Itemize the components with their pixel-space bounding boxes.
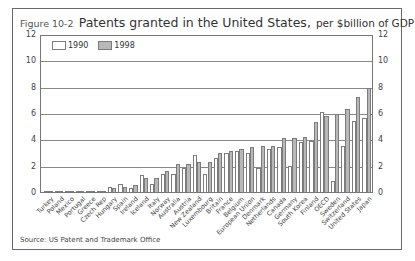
y-tick-label: 12 bbox=[22, 30, 36, 39]
y-tick-label: 0 bbox=[378, 188, 392, 197]
bar-1998 bbox=[165, 171, 169, 192]
source-note: Source: US Patent and Trademark Office bbox=[20, 236, 160, 244]
y-tick-label: 4 bbox=[22, 135, 36, 144]
legend-swatch-1990 bbox=[52, 41, 66, 50]
bar-1998 bbox=[154, 178, 158, 192]
legend-label-1998: 1998 bbox=[114, 41, 134, 50]
legend-item-1990: 1990 bbox=[52, 41, 88, 50]
y-tick-label: 0 bbox=[22, 188, 36, 197]
bar-1998 bbox=[239, 149, 243, 192]
plot-area bbox=[40, 35, 373, 193]
bar-1998 bbox=[292, 138, 296, 192]
legend-item-1998: 1998 bbox=[98, 41, 134, 50]
bar-1998 bbox=[335, 114, 339, 192]
bar-1998 bbox=[282, 138, 286, 192]
y-tick-label: 10 bbox=[22, 56, 36, 65]
figure-title: Figure 10-2 Patents granted in the Unite… bbox=[20, 12, 414, 31]
y-tick-label: 2 bbox=[378, 162, 392, 171]
y-tick-label: 2 bbox=[22, 162, 36, 171]
bar-1998 bbox=[59, 191, 63, 192]
bar-1998 bbox=[218, 153, 222, 193]
bar-1998 bbox=[229, 151, 233, 192]
bar-1998 bbox=[314, 122, 318, 192]
bar-1998 bbox=[48, 191, 52, 192]
y-tick-label: 12 bbox=[378, 30, 392, 39]
bar-1998 bbox=[144, 178, 148, 192]
bar-1998 bbox=[70, 191, 74, 192]
bar-1998 bbox=[80, 191, 84, 192]
bar-1998 bbox=[303, 137, 307, 192]
legend-label-1990: 1990 bbox=[68, 41, 88, 50]
y-tick-label: 4 bbox=[378, 135, 392, 144]
gridline bbox=[41, 61, 372, 62]
bar-1998 bbox=[208, 162, 212, 192]
bar-1998 bbox=[345, 109, 349, 192]
y-tick-label: 8 bbox=[22, 83, 36, 92]
bar-1998 bbox=[176, 164, 180, 192]
bar-1998 bbox=[261, 146, 265, 192]
y-tick-label: 8 bbox=[378, 83, 392, 92]
legend-swatch-1998 bbox=[98, 41, 112, 50]
bar-1998 bbox=[91, 191, 95, 192]
chart-title: Patents granted in the United States, bbox=[79, 15, 311, 30]
chart-subtitle: per $billion of GDP bbox=[316, 17, 414, 29]
bar-1998 bbox=[112, 188, 116, 192]
bar-1998 bbox=[133, 185, 137, 192]
bar-1998 bbox=[367, 88, 371, 192]
bar-1998 bbox=[123, 187, 127, 192]
bar-1998 bbox=[101, 191, 105, 192]
bar-1998 bbox=[197, 162, 201, 192]
gridline bbox=[41, 88, 372, 89]
y-tick-label: 6 bbox=[378, 109, 392, 118]
legend: 1990 1998 bbox=[52, 41, 145, 50]
bar-1998 bbox=[186, 164, 190, 192]
bar-1998 bbox=[324, 116, 328, 192]
bar-1998 bbox=[356, 97, 360, 192]
bar-1998 bbox=[250, 147, 254, 192]
bar-1998 bbox=[271, 146, 275, 192]
figure-label: Figure 10-2 bbox=[20, 18, 74, 29]
y-tick-label: 10 bbox=[378, 56, 392, 65]
y-tick-label: 6 bbox=[22, 109, 36, 118]
